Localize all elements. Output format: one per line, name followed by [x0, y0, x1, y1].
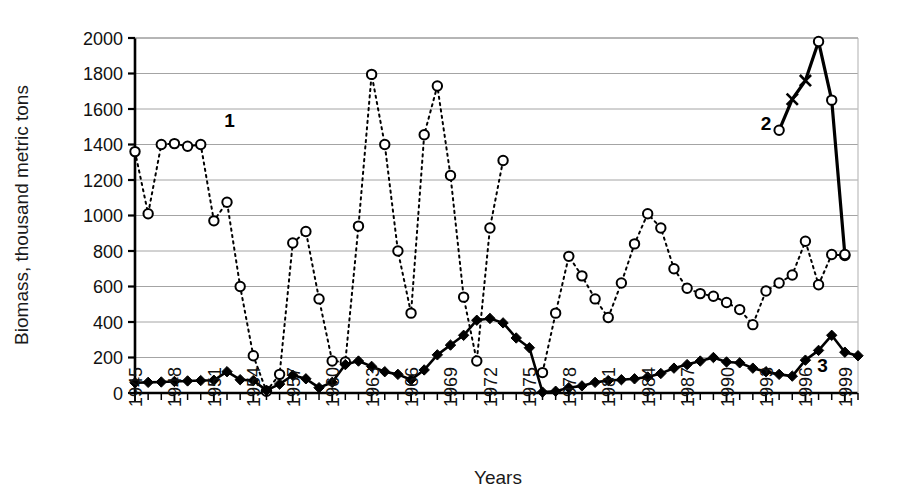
marker-open-circle: [393, 246, 402, 255]
marker-open-circle: [814, 280, 823, 289]
x-tick-label: 1987: [678, 367, 698, 407]
x-tick-label: 1945: [126, 367, 146, 407]
marker-open-circle: [827, 95, 836, 104]
marker-open-circle: [301, 227, 310, 236]
marker-open-circle: [840, 250, 849, 259]
x-tick-label: 1990: [718, 367, 738, 407]
marker-open-circle: [630, 239, 639, 248]
y-tick-label: 400: [93, 313, 123, 333]
series-3-label: 3: [817, 355, 828, 376]
series-annotations: 123: [224, 110, 827, 376]
marker-open-circle: [656, 223, 665, 232]
marker-open-circle: [183, 142, 192, 151]
x-tick-label: 1972: [481, 367, 501, 407]
y-tick-label: 1400: [83, 135, 123, 155]
marker-open-circle: [249, 351, 258, 360]
x-tick-label: 1978: [560, 367, 580, 407]
marker-filled-diamond: [721, 357, 731, 367]
marker-open-circle: [420, 130, 429, 139]
plot-series: [130, 37, 863, 397]
marker-open-circle: [367, 70, 376, 79]
x-tick-label: 1948: [165, 367, 185, 407]
marker-open-circle: [485, 223, 494, 232]
chart-canvas: 0200400600800100012001400160018002000 19…: [0, 0, 902, 497]
y-tick-label: 600: [93, 277, 123, 297]
marker-open-circle: [380, 140, 389, 149]
marker-open-circle: [604, 313, 613, 322]
marker-open-circle: [814, 37, 823, 46]
chart-figure: 0200400600800100012001400160018002000 19…: [0, 0, 902, 497]
marker-open-circle: [577, 271, 586, 280]
y-tick-label: 1800: [83, 64, 123, 84]
marker-open-circle: [696, 289, 705, 298]
x-tick-label: 1951: [205, 367, 225, 407]
marker-open-circle: [143, 209, 152, 218]
marker-filled-diamond: [708, 352, 718, 362]
marker-open-circle: [774, 278, 783, 287]
marker-open-circle: [590, 294, 599, 303]
series-2: [774, 37, 849, 259]
x-tick-label: 1954: [244, 367, 264, 407]
series-2-label: 2: [761, 113, 772, 134]
marker-filled-diamond: [734, 358, 744, 368]
marker-open-circle: [827, 250, 836, 259]
series-1: [130, 70, 849, 396]
marker-open-circle: [498, 156, 507, 165]
y-tick-label: 800: [93, 242, 123, 262]
marker-open-circle: [446, 171, 455, 180]
marker-open-circle: [551, 308, 560, 317]
marker-open-circle: [222, 197, 231, 206]
marker-open-circle: [157, 140, 166, 149]
x-tick-label: 1957: [284, 367, 304, 407]
marker-open-circle: [709, 292, 718, 301]
marker-open-circle: [196, 140, 205, 149]
marker-open-circle: [564, 252, 573, 261]
x-tick-label: 1966: [402, 367, 422, 407]
marker-open-circle: [722, 298, 731, 307]
x-tick-labels: 1945194819511954195719601963196619691972…: [126, 367, 856, 407]
x-axis-title: Years: [474, 467, 522, 488]
y-tick-label: 1200: [83, 171, 123, 191]
marker-open-circle: [288, 238, 297, 247]
series-1-label: 1: [224, 110, 235, 131]
marker-open-circle: [130, 147, 139, 156]
marker-open-circle: [327, 356, 336, 365]
marker-open-circle: [761, 286, 770, 295]
y-tick-label: 1000: [83, 206, 123, 226]
marker-open-circle: [406, 308, 415, 317]
marker-open-circle: [617, 278, 626, 287]
y-tick-label: 2000: [83, 29, 123, 49]
y-tick-labels: 0200400600800100012001400160018002000: [83, 29, 123, 404]
y-axis-title: Biomass, thousand metric tons: [11, 85, 32, 345]
x-tick-label: 1963: [363, 367, 383, 407]
marker-open-circle: [433, 81, 442, 90]
y-tick-label: 0: [113, 384, 123, 404]
x-tick-label: 1975: [520, 367, 540, 407]
marker-open-circle: [235, 282, 244, 291]
series-line: [543, 214, 845, 373]
marker-open-circle: [209, 216, 218, 225]
marker-open-circle: [748, 320, 757, 329]
x-tick-label: 1996: [796, 367, 816, 407]
marker-open-circle: [669, 264, 678, 273]
y-tick-label: 1600: [83, 100, 123, 120]
marker-open-circle: [801, 237, 810, 246]
marker-open-circle: [735, 305, 744, 314]
marker-open-circle: [643, 209, 652, 218]
marker-open-circle: [774, 126, 783, 135]
marker-open-circle: [314, 294, 323, 303]
x-tick-label: 1981: [599, 367, 619, 407]
gridlines: [135, 38, 858, 393]
x-tick-label: 1960: [323, 367, 343, 407]
x-tick-label: 1999: [836, 367, 856, 407]
x-tick-label: 1984: [639, 367, 659, 407]
marker-open-circle: [472, 356, 481, 365]
y-tick-label: 200: [93, 348, 123, 368]
marker-open-circle: [459, 292, 468, 301]
marker-open-circle: [170, 139, 179, 148]
marker-open-circle: [354, 221, 363, 230]
x-tick-label: 1993: [757, 367, 777, 407]
marker-open-circle: [788, 270, 797, 279]
x-tick-label: 1969: [441, 367, 461, 407]
marker-open-circle: [682, 284, 691, 293]
